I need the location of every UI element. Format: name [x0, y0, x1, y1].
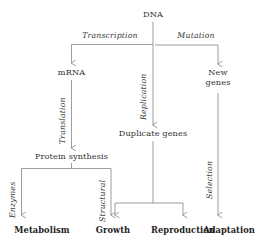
edge-label-structural: Structural — [98, 180, 107, 222]
edge-label-transcription: Transcription — [82, 31, 137, 40]
flowchart-diagram: DNA mRNA New genes Duplicate genes Prote… — [0, 0, 260, 243]
terminal-growth: Growth — [96, 225, 130, 235]
edge-label-replication: Replication — [139, 74, 148, 120]
node-protein-synthesis: Protein synthesis — [35, 152, 108, 162]
edge-label-translation: Translation — [58, 97, 67, 144]
edge-label-enzymes: Enzymes — [8, 182, 17, 218]
terminal-metabolism: Metabolism — [14, 225, 69, 235]
node-dna: DNA — [143, 10, 163, 20]
node-mrna: mRNA — [58, 68, 85, 78]
edge-label-mutation: Mutation — [177, 31, 214, 40]
terminal-adaptation: Adaptation — [203, 225, 255, 235]
edge-label-selection: Selection — [205, 161, 214, 199]
node-new-genes-line2: genes — [206, 78, 231, 88]
node-duplicate-genes: Duplicate genes — [119, 129, 187, 139]
